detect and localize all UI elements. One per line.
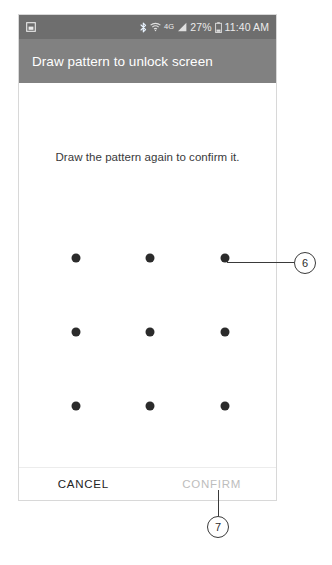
phone-screen-frame: 4G 27% 11:40 AM Draw pattern to unlock s… <box>18 14 277 501</box>
pattern-dot-r1c3[interactable] <box>221 254 230 263</box>
callout-7: 7 <box>207 516 229 538</box>
status-bar: 4G 27% 11:40 AM <box>19 15 276 39</box>
signal-bars-icon <box>177 22 187 32</box>
pattern-dot-r3c1[interactable] <box>72 402 81 411</box>
instruction-text: Draw the pattern again to confirm it. <box>19 151 276 163</box>
battery-percent-label: 27% <box>190 22 211 33</box>
pattern-dot-r1c1[interactable] <box>72 254 81 263</box>
battery-icon <box>215 22 222 33</box>
network-type-label: 4G <box>164 23 174 31</box>
pattern-dot-r2c2[interactable] <box>146 328 155 337</box>
screen-content: Draw the pattern again to confirm it. CA… <box>19 83 276 500</box>
pattern-lock-grid[interactable] <box>19 258 276 438</box>
callout-6: 6 <box>294 252 316 274</box>
pattern-dot-r1c2[interactable] <box>146 254 155 263</box>
pattern-dot-r3c3[interactable] <box>221 402 230 411</box>
clock-label: 11:40 AM <box>225 22 269 33</box>
confirm-button: CONFIRM <box>148 478 277 490</box>
button-bar: CANCEL CONFIRM <box>19 467 276 500</box>
title-bar: Draw pattern to unlock screen <box>19 39 276 83</box>
page-title: Draw pattern to unlock screen <box>32 54 213 69</box>
cancel-button[interactable]: CANCEL <box>19 478 148 490</box>
pattern-dot-r2c1[interactable] <box>72 328 81 337</box>
pattern-dot-r2c3[interactable] <box>221 328 230 337</box>
status-bar-left-icons <box>26 22 36 32</box>
bluetooth-icon <box>140 22 147 33</box>
status-bar-right-icons: 4G 27% 11:40 AM <box>140 22 269 33</box>
wifi-icon <box>150 22 161 32</box>
pattern-dot-r3c2[interactable] <box>146 402 155 411</box>
screenshot-icon <box>26 22 36 32</box>
